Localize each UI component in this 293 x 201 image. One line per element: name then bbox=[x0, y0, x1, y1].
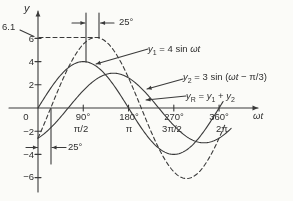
y-tick-neg4: −4 bbox=[10, 149, 34, 160]
equation-y2-tail: − π/3) bbox=[238, 71, 266, 82]
x-tick-270deg: 270° bbox=[156, 111, 192, 122]
x-tick-3pi-half: 3π/2 bbox=[154, 123, 190, 134]
x-axis-label: ωt bbox=[253, 110, 263, 121]
equation-y2-ital: ωt bbox=[228, 71, 238, 82]
peak-value-label: 6.1 bbox=[2, 21, 15, 32]
peak-shift-annotation: 25° bbox=[119, 16, 133, 27]
equation-y1-ital: ωt bbox=[190, 43, 200, 54]
x-tick-pi: π bbox=[111, 123, 147, 134]
equation-y2-mid: = 3 sin ( bbox=[192, 71, 229, 82]
origin-label: 0 bbox=[20, 111, 32, 122]
y-tick-2: 2 bbox=[10, 79, 34, 90]
x-tick-180deg: 180° bbox=[111, 111, 147, 122]
x-tick-2pi: 2π bbox=[204, 123, 240, 134]
equation-y1-mid: = 4 sin bbox=[157, 43, 191, 54]
y-axis-label: y bbox=[24, 3, 30, 14]
x-tick-90deg: 90° bbox=[65, 111, 101, 122]
y-tick-6: 6 bbox=[10, 33, 34, 44]
equation-y2: y2 = 3 sin (ωt − π/3) bbox=[183, 71, 267, 82]
x-tick-pi-half: π/2 bbox=[63, 123, 99, 134]
equation-yr: yR = y1 + y2 bbox=[186, 90, 235, 101]
waveform-figure: y 6.1 6 4 2 −2 −4 −6 0 90° 180° 270° 360… bbox=[0, 0, 293, 201]
y-tick-neg6: −6 bbox=[10, 171, 34, 182]
y-tick-neg2: −2 bbox=[10, 126, 34, 137]
equation-yr-sub2: 2 bbox=[231, 96, 235, 103]
equation-y1: y1 = 4 sin ωt bbox=[148, 43, 200, 54]
equation-yr-plus: + bbox=[215, 90, 226, 101]
y-tick-4: 4 bbox=[10, 56, 34, 67]
x-tick-360deg: 360° bbox=[201, 111, 237, 122]
zero-shift-annotation: 25° bbox=[68, 141, 82, 152]
equation-yr-mid: = bbox=[196, 90, 207, 101]
waveform-canvas bbox=[0, 0, 293, 201]
